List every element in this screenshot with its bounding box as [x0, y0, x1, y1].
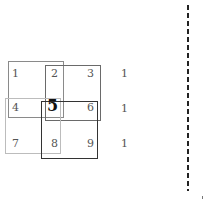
grid-cell-label: 6 [87, 102, 94, 113]
grid-cell-label: 7 [12, 138, 19, 149]
grid-cell-label: 3 [87, 68, 94, 79]
grid-cell-label: 2 [51, 68, 58, 79]
grid-cell-label: 4 [12, 102, 19, 113]
side-value-label: 1 [121, 68, 128, 79]
grid-cell-label: 8 [51, 138, 58, 149]
grid-cell-label: 5 [47, 98, 58, 114]
side-value-label: 1 [121, 103, 128, 114]
grid-cell-label: 1 [12, 68, 19, 79]
side-value-label: 1 [121, 138, 128, 149]
grid-cell-label: 9 [87, 138, 94, 149]
corner-mark [202, 196, 203, 199]
dashed-divider-line [187, 5, 189, 191]
